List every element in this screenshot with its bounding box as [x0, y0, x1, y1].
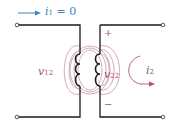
arrow-icon — [18, 11, 41, 16]
secondary-coil — [96, 54, 101, 86]
minus-sign: − — [104, 100, 112, 110]
v22-label: v22 — [104, 69, 119, 80]
plus-sign: + — [104, 28, 112, 38]
i2-label: i2 — [146, 65, 154, 76]
v12-label: v12 — [38, 66, 53, 77]
i1-label: i1 = 0 — [45, 6, 76, 17]
